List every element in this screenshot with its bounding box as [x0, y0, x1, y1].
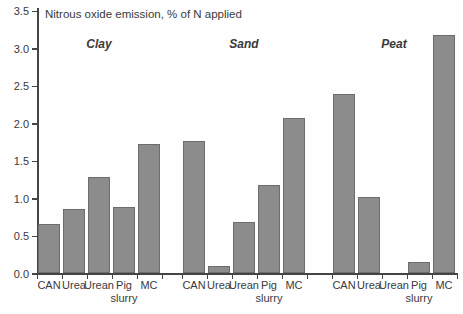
nitrous-oxide-bar-chart: Nitrous oxide emission, % of N applied 0… — [0, 0, 463, 314]
bar-peat-pig-slurry — [408, 262, 430, 273]
x-tick — [207, 275, 209, 279]
group-label-clay: Clay — [86, 37, 111, 51]
chart-title: Nitrous oxide emission, % of N applied — [45, 8, 242, 20]
bar-clay-urea — [63, 209, 85, 273]
y-tick — [32, 123, 37, 125]
bar-sand-urean — [233, 222, 255, 273]
x-tick — [87, 275, 89, 279]
group-label-peat: Peat — [381, 37, 406, 51]
bar-sand-pig-slurry — [258, 185, 280, 273]
x-axis-label-clay-mc: MC — [131, 279, 167, 292]
y-tick-label: 3.5 — [3, 5, 29, 17]
bar-peat-urea — [358, 197, 380, 274]
y-tick-label: 1.5 — [3, 155, 29, 167]
x-tick — [382, 275, 384, 279]
y-tick-label: 2.5 — [3, 80, 29, 92]
x-axis-label-peat-mc: MC — [426, 279, 462, 292]
y-tick — [32, 161, 37, 163]
x-tick — [112, 275, 114, 279]
y-tick — [32, 198, 37, 200]
y-tick — [32, 48, 37, 50]
x-tick — [307, 275, 309, 279]
bar-clay-pig-slurry — [113, 207, 135, 273]
bar-sand-can — [183, 141, 205, 273]
group-label-sand: Sand — [229, 37, 258, 51]
y-tick-label: 3.0 — [3, 43, 29, 55]
y-tick — [32, 236, 37, 238]
x-axis-line — [37, 273, 458, 275]
bar-peat-mc — [433, 35, 455, 273]
x-tick — [407, 275, 409, 279]
x-tick — [357, 275, 359, 279]
x-tick — [457, 275, 459, 279]
x-tick — [62, 275, 64, 279]
x-tick — [432, 275, 434, 279]
x-tick — [137, 275, 139, 279]
bar-clay-mc — [138, 144, 160, 273]
bar-clay-urean — [88, 177, 110, 273]
x-tick — [257, 275, 259, 279]
y-tick — [32, 86, 37, 88]
x-tick — [232, 275, 234, 279]
bar-sand-urea — [208, 266, 230, 274]
y-tick-label: 2.0 — [3, 118, 29, 130]
x-tick — [332, 275, 334, 279]
x-axis-label-sand-mc: MC — [276, 279, 312, 292]
bar-clay-can — [38, 224, 60, 273]
bar-peat-can — [333, 94, 355, 273]
x-tick — [282, 275, 284, 279]
y-tick — [32, 11, 37, 13]
x-tick — [162, 275, 164, 279]
y-tick-label: 1.0 — [3, 193, 29, 205]
bar-sand-mc — [283, 118, 305, 273]
y-tick-label: 0.0 — [3, 268, 29, 280]
y-tick-label: 0.5 — [3, 230, 29, 242]
x-tick — [182, 275, 184, 279]
x-tick — [37, 275, 39, 279]
